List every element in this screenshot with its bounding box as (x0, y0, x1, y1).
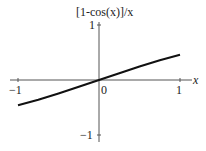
x-axis-label: x (193, 73, 198, 88)
x-tick-label-neg: −1 (9, 83, 22, 98)
y-tick-label-neg: −1 (80, 128, 93, 143)
x-tick-label-pos: 1 (176, 83, 182, 98)
plot-area (0, 0, 206, 151)
x-tick-label-zero: 0 (101, 83, 107, 98)
y-tick-label-pos: 1 (89, 18, 95, 33)
y-axis-label: [1-cos(x)]/x (76, 5, 133, 20)
